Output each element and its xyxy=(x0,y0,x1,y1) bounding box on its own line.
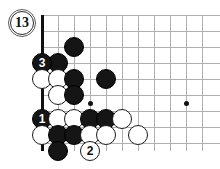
grid-line-horizontal xyxy=(42,31,220,32)
grid-line-vertical xyxy=(170,15,171,151)
stone-black[interactable] xyxy=(64,37,84,57)
grid-line-vertical xyxy=(186,15,187,151)
grid-line-horizontal xyxy=(42,15,220,16)
stone-white[interactable] xyxy=(128,125,148,145)
grid-line-vertical xyxy=(202,15,203,151)
grid-line-vertical xyxy=(154,15,155,151)
figure-number-label: 13 xyxy=(8,9,36,37)
stone-black[interactable] xyxy=(96,69,116,89)
figure-number-badge: 13 xyxy=(8,9,36,37)
grid-line-vertical xyxy=(122,15,123,151)
star-point xyxy=(184,101,189,106)
go-diagram-figure: 312 13 xyxy=(0,0,220,169)
stone-black[interactable] xyxy=(64,85,84,105)
stone-move-number: 2 xyxy=(81,142,99,160)
stone-white-move-2[interactable]: 2 xyxy=(80,141,100,161)
stone-black[interactable] xyxy=(48,141,68,161)
star-point xyxy=(88,101,93,106)
stone-white[interactable] xyxy=(96,125,116,145)
grid-line-horizontal xyxy=(42,63,220,64)
stone-white[interactable] xyxy=(112,109,132,129)
